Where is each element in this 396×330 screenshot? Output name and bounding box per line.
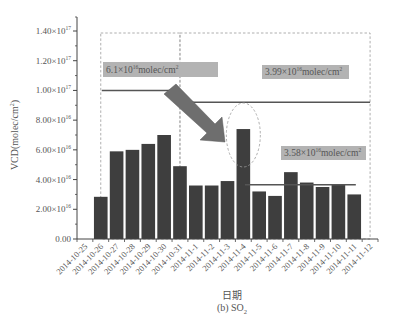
y-axis-title: VCD(molec/cm2)	[9, 100, 21, 170]
bar-2014-11-6	[268, 196, 282, 239]
y-tick-label: 2.00×1016	[36, 203, 72, 214]
mean-label-1: 6.1×1016molec/cm2	[106, 64, 179, 75]
y-tick-label: 6.00×1016	[36, 144, 72, 155]
chart-subtitle: (b) SO2	[217, 302, 247, 315]
bar-2014-10-31	[173, 166, 187, 239]
bar-2014-11-3	[221, 181, 235, 239]
y-tick-label: 0.00	[55, 234, 71, 244]
bar-2014-10-27	[110, 151, 124, 239]
bar-2014-11-7	[284, 172, 298, 239]
y-tick-label: 4.00×1016	[36, 174, 72, 185]
bar-2014-11-10	[332, 184, 346, 239]
bar-2014-10-26	[94, 197, 108, 239]
trend-arrow-icon	[164, 84, 225, 142]
x-axis-title: 日期	[222, 290, 242, 301]
y-ticks: 0.002.00×10164.00×10166.00×10168.00×1016…	[36, 17, 77, 244]
so2-vcd-bar-chart: 6.1×1016molec/cm23.99×1016molec/cm23.58×…	[0, 0, 396, 330]
bar-2014-11-1	[189, 186, 203, 239]
y-tick-label: 1.40×1017	[36, 25, 72, 36]
y-tick-label: 1.00×1017	[36, 84, 72, 95]
x-ticks: 2014-10-252014-10-262014-10-272014-10-28…	[54, 239, 378, 276]
bar-2014-11-9	[316, 187, 330, 239]
bar-2014-11-8	[300, 183, 314, 239]
y-tick-label: 8.00×1016	[36, 114, 72, 125]
bar-2014-11-11	[347, 194, 361, 239]
y-tick-label: 1.20×1017	[36, 55, 72, 66]
bar-2014-11-5	[252, 191, 266, 239]
bar-2014-10-29	[141, 144, 155, 239]
bar-2014-10-28	[126, 150, 140, 239]
bar-2014-10-30	[157, 135, 171, 239]
mean-label-2: 3.99×1016molec/cm2	[265, 66, 342, 77]
mean-label-3: 3.58×1016molec/cm2	[284, 147, 361, 158]
bar-2014-11-2	[205, 186, 219, 239]
